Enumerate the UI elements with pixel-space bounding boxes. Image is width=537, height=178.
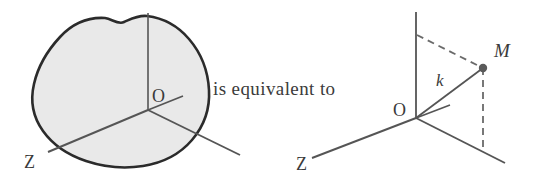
left-origin-label: O xyxy=(152,86,165,106)
left-z-label: Z xyxy=(24,152,35,172)
equivalence-figure: O Z O Z M k xyxy=(0,0,537,178)
right-origin-label: O xyxy=(393,100,406,120)
right-z-axis xyxy=(312,118,416,158)
right-right-axis xyxy=(416,105,450,118)
left-diagram: O Z xyxy=(24,13,240,172)
vector-k-label: k xyxy=(436,71,444,90)
equivalence-caption: is equivalent to xyxy=(213,78,336,100)
dashed-top-projection xyxy=(417,35,483,68)
segment-k xyxy=(416,68,483,118)
right-front-axis xyxy=(416,118,505,163)
point-m-marker xyxy=(479,64,487,72)
solid-body-blob xyxy=(32,16,209,168)
point-m-label: M xyxy=(493,40,511,61)
right-z-label: Z xyxy=(296,154,307,174)
